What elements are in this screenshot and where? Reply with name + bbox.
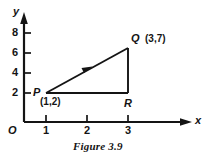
- origin-label: O: [8, 125, 17, 136]
- x-tick-label-2: 2: [84, 125, 90, 136]
- y-tick-label-2: 2: [12, 87, 18, 98]
- x-axis-arrowhead: [180, 118, 192, 126]
- y-axis-arrowhead: [20, 12, 28, 24]
- coordinate-plane-drawing: [0, 0, 207, 159]
- x-axis-label: x: [195, 115, 201, 126]
- point-label-r: R: [124, 98, 132, 109]
- y-tick-label-6: 6: [12, 47, 18, 58]
- figure-caption: Figure 3.9: [73, 141, 123, 152]
- figure-3-9: y x O 2 4 6 8 1 2 3 P (1,2) Q (3,7) R Fi…: [0, 0, 207, 159]
- point-coords-p: (1,2): [40, 97, 61, 107]
- y-tick-label-8: 8: [12, 27, 18, 38]
- point-coords-q: (3,7): [145, 34, 166, 44]
- y-axis-label: y: [13, 6, 19, 17]
- x-tick-label-3: 3: [125, 125, 131, 136]
- x-tick-label-1: 1: [43, 125, 49, 136]
- point-label-q: Q: [131, 33, 140, 44]
- y-tick-label-4: 4: [12, 67, 18, 78]
